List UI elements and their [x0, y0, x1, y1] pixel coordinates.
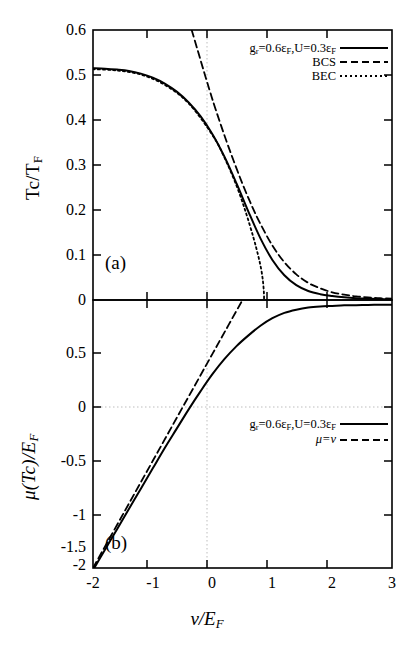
panel-b-ytick-0: 0 — [78, 398, 86, 416]
curve-solid — [93, 305, 392, 570]
xtick--1: -1 — [146, 574, 159, 592]
panel-b-legend-label-munu: μ=ν — [316, 432, 336, 446]
panel-b-ytick--1: -1 — [73, 506, 86, 524]
panel-b-ytick-0.5: 0.5 — [66, 344, 86, 362]
panel-a-legend-label-main: gr=0.6εF,U=0.3εF — [249, 41, 336, 55]
curve-dashed — [93, 300, 243, 568]
panel-a-legend-entry-main: gr=0.6εF,U=0.3εF — [249, 41, 336, 56]
panel-a-curves — [93, 30, 392, 300]
panel-a-ticks — [93, 30, 392, 300]
panel-b-ytick--0.5: -0.5 — [61, 452, 86, 470]
panel-a-ytick-0.1: 0.1 — [66, 246, 86, 264]
panel-a-ytick-0.2: 0.2 — [66, 201, 86, 219]
xtick-3: 3 — [388, 574, 396, 592]
panel-b-legend-label-main: gr=0.6εF,U=0.3εF — [249, 417, 336, 431]
panel-a-legend-entry-bcs: BCS — [312, 55, 336, 70]
panel-a-legend-label-bcs: BCS — [312, 55, 336, 69]
panel-a-ytick-0.4: 0.4 — [66, 111, 86, 129]
panel-a-legend-entry-bec: BEC — [312, 69, 336, 84]
panel-a-ytick-0.3: 0.3 — [66, 156, 86, 174]
xtick--2: -2 — [86, 574, 99, 592]
panel-b-curves — [93, 300, 392, 570]
panel-a-ytick-0.5: 0.5 — [66, 66, 86, 84]
panel-a-ytick-0: 0 — [78, 291, 86, 309]
panel-b-ytick--1.5: -1.5 — [61, 538, 86, 556]
curve-solid — [93, 68, 392, 299]
panel-b-legend-entry-munu: μ=ν — [316, 432, 336, 447]
xtick-2: 2 — [328, 574, 336, 592]
curve-dashed — [192, 30, 392, 299]
panel-a-legend-samples — [340, 48, 388, 76]
panel-b-ytick--2: -2 — [73, 556, 86, 574]
panel-a-legend-label-bec: BEC — [312, 69, 336, 83]
panel-a-ytick-0.6: 0.6 — [66, 21, 86, 39]
xtick-0: 0 — [208, 574, 216, 592]
panel-a-frame — [93, 30, 392, 300]
xtick-1: 1 — [268, 574, 276, 592]
figure-container: Tc/TF μ(Tc)/EF ν/EF — [0, 0, 414, 648]
panel-a-label: (a) — [105, 252, 126, 274]
panel-b-label: (b) — [105, 532, 127, 554]
panel-b-legend-entry-main: gr=0.6εF,U=0.3εF — [249, 417, 336, 432]
panel-b-legend-samples — [340, 424, 388, 440]
